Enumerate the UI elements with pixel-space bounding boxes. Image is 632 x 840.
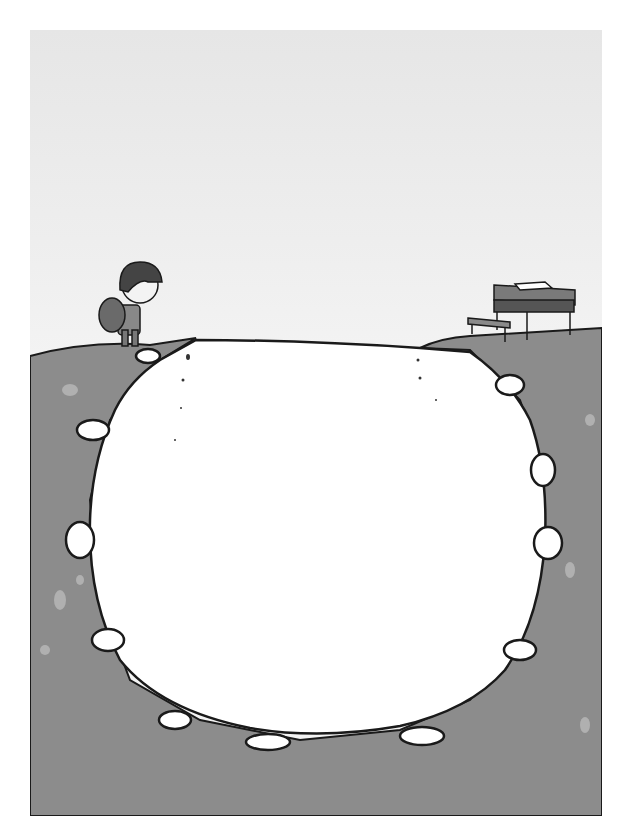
open-books: [515, 282, 552, 290]
illustration-frame: Sepaz: [30, 30, 602, 816]
child-with-backpack: [99, 262, 162, 346]
illustration-canvas: [30, 30, 602, 816]
